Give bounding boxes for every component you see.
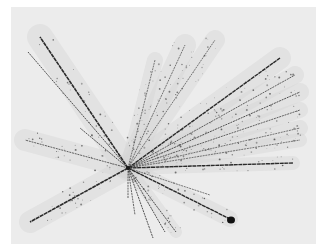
interaction-vertex [126, 166, 130, 170]
dense-blob [227, 217, 235, 224]
emulsion-star-photo [0, 0, 325, 251]
